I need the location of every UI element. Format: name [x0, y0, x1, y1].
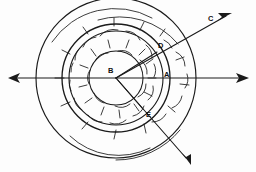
geometry-diagram: B A C D E [0, 0, 256, 172]
chord-BD [116, 52, 157, 78]
arrowhead-C [217, 13, 232, 21]
label-D: D [158, 41, 164, 50]
figure-canvas: B A C D E [0, 0, 256, 172]
label-B: B [108, 66, 114, 75]
label-E: E [146, 110, 151, 119]
arrowhead-lower [182, 153, 191, 165]
label-A: A [164, 70, 170, 79]
label-C: C [208, 14, 214, 23]
ray-to-C [116, 16, 226, 78]
